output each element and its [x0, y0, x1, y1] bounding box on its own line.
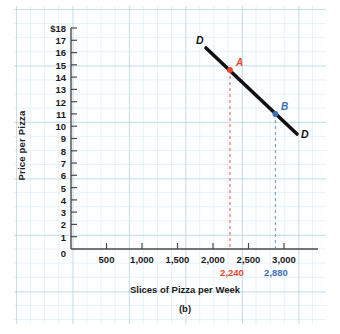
y-tick-label: 9 — [30, 134, 66, 144]
x-axis-ticks — [107, 243, 285, 249]
x-tick-label: 500 — [87, 255, 127, 265]
y-tick-label: 0 — [30, 249, 66, 259]
annotation-quantity-a: 2,240 — [212, 268, 252, 278]
y-tick-label: 7 — [30, 159, 66, 169]
y-tick-label: 4 — [30, 196, 66, 206]
y-tick-label: 11 — [30, 110, 66, 120]
demand-curve-figure: $18 17 16 15 14 13 12 11 10 9 8 7 6 5 4 … — [0, 0, 340, 334]
y-tick-label: 12 — [30, 98, 66, 108]
y-axis-ticks — [71, 28, 77, 237]
y-tick-label: 14 — [30, 73, 66, 83]
y-tick-label: $18 — [30, 24, 66, 34]
y-tick-label: 3 — [30, 208, 66, 218]
y-tick-label: 6 — [30, 171, 66, 181]
curve-label-end: D — [301, 129, 309, 140]
point-a-label: A — [236, 58, 243, 68]
y-tick-label: 10 — [30, 122, 66, 132]
y-tick-label: 17 — [30, 36, 66, 46]
y-tick-label: 5 — [30, 184, 66, 194]
x-axis-title: Slices of Pizza per Week — [60, 284, 310, 295]
x-tick-label: 1,000 — [122, 255, 162, 265]
x-tick-label: 2,000 — [193, 255, 233, 265]
point-b-marker — [273, 111, 279, 117]
point-b-label: B — [281, 102, 288, 112]
y-axis-title: Price per Pizza — [16, 96, 27, 196]
y-tick-label: 2 — [30, 220, 66, 230]
annotation-quantity-b: 2,880 — [256, 268, 296, 278]
point-a-marker — [227, 67, 233, 73]
y-tick-label: 8 — [30, 147, 66, 157]
y-tick-label: 16 — [30, 48, 66, 58]
x-tick-label: 2,500 — [229, 255, 269, 265]
demand-curve — [206, 48, 297, 134]
curve-label-start: D — [196, 35, 204, 46]
y-tick-label: 15 — [30, 61, 66, 71]
y-tick-label: 13 — [30, 85, 66, 95]
y-tick-label: 1 — [30, 233, 66, 243]
x-tick-label: 1,500 — [158, 255, 198, 265]
panel-caption: (b) — [60, 303, 310, 314]
x-tick-label: 3,000 — [264, 255, 304, 265]
